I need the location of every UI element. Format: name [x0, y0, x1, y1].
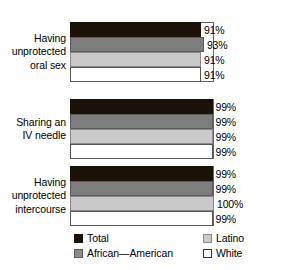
- bar-row: 100%: [70, 196, 243, 211]
- bar-row: 91%: [70, 22, 224, 37]
- bar-row: 99%: [70, 129, 236, 144]
- group-label-line: unprotected: [0, 45, 66, 58]
- legend-label: White: [216, 247, 242, 260]
- bar-latino: [70, 52, 201, 67]
- bar-white: [70, 211, 213, 226]
- bar-group-iv-needle: Sharing an IV needle 99% 99% 99% 99%: [0, 99, 281, 159]
- group-label-line: oral sex: [0, 59, 66, 72]
- group-label-iv-needle: Sharing an IV needle: [0, 99, 70, 159]
- group-label-line: unprotected: [0, 189, 66, 202]
- group-label-line: IV needle: [0, 129, 66, 142]
- bar-row: 93%: [70, 37, 227, 52]
- bars-area: 99% 99% 100% 99%: [70, 166, 281, 226]
- bar-row: 91%: [70, 67, 224, 82]
- legend-item-african-american: African—American: [74, 247, 193, 260]
- bar-group-oral-sex: Having unprotected oral sex 91% 93% 91% …: [0, 22, 281, 82]
- bar-african-american: [70, 37, 204, 52]
- group-label-line: Having: [0, 32, 66, 45]
- group-label-intercourse: Having unprotected intercourse: [0, 166, 70, 226]
- bar-value: 99%: [216, 146, 236, 158]
- bar-african-american: [70, 114, 213, 129]
- bar-value: 99%: [216, 183, 236, 195]
- bar-row: 99%: [70, 114, 236, 129]
- bar-latino: [70, 196, 214, 211]
- legend-swatch-icon: [203, 234, 212, 243]
- bar-latino: [70, 129, 213, 144]
- bars-area: 99% 99% 99% 99%: [70, 99, 281, 159]
- legend-item-total: Total: [74, 232, 193, 245]
- bar-value: 99%: [216, 168, 236, 180]
- bar-white: [70, 144, 213, 159]
- legend-label: Total: [87, 232, 109, 245]
- bar-row: 99%: [70, 181, 236, 196]
- legend-swatch-icon: [74, 249, 83, 258]
- bar-value: 99%: [216, 116, 236, 128]
- bar-row: 99%: [70, 211, 236, 226]
- bar-group-intercourse: Having unprotected intercourse 99% 99% 1…: [0, 166, 281, 226]
- bar-row: 99%: [70, 144, 236, 159]
- bar-african-american: [70, 181, 213, 196]
- group-label-line: Sharing an: [0, 116, 66, 129]
- bar-value: 91%: [204, 69, 224, 81]
- bar-value: 91%: [204, 24, 224, 36]
- group-label-line: Having: [0, 176, 66, 189]
- bar-value: 100%: [217, 198, 243, 210]
- bar-row: 99%: [70, 99, 236, 114]
- bar-total: [70, 99, 213, 114]
- bars-area: 91% 93% 91% 91%: [70, 22, 281, 82]
- bar-total: [70, 22, 201, 37]
- bar-value: 99%: [216, 213, 236, 225]
- bar-row: 99%: [70, 166, 236, 181]
- legend-swatch-icon: [203, 249, 212, 258]
- bar-white: [70, 67, 201, 82]
- bar-row: 91%: [70, 52, 224, 67]
- bar-value: 91%: [204, 54, 224, 66]
- legend-item-latino: Latino: [203, 232, 264, 245]
- bar-chart: Having unprotected oral sex 91% 93% 91% …: [0, 0, 281, 270]
- bar-value: 93%: [207, 39, 227, 51]
- legend-label: Latino: [216, 232, 244, 245]
- chart-legend: Total Latino African—American White: [74, 232, 264, 260]
- bar-total: [70, 166, 213, 181]
- legend-label: African—American: [87, 247, 173, 260]
- group-label-oral-sex: Having unprotected oral sex: [0, 22, 70, 82]
- legend-item-white: White: [203, 247, 264, 260]
- bar-value: 99%: [216, 101, 236, 113]
- bar-value: 99%: [216, 131, 236, 143]
- legend-swatch-icon: [74, 234, 83, 243]
- group-label-line: intercourse: [0, 203, 66, 216]
